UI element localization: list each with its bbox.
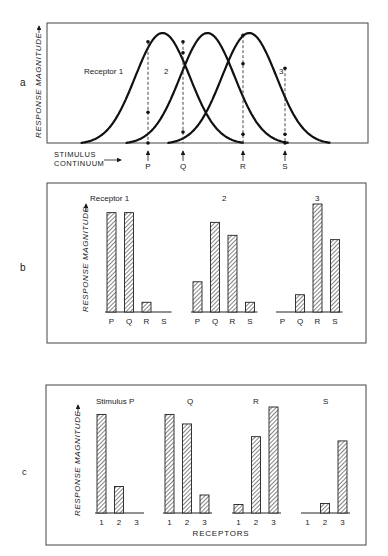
panel-a-frame [47,23,368,143]
panel-label-b: b [20,262,26,273]
category-label: 2 [117,518,122,527]
category-label: Q [212,317,218,326]
intersection-dot [181,130,185,134]
group-title-stimulus-S: S [323,397,328,406]
intersection-dot [241,33,245,37]
category-label: 1 [305,518,310,527]
group-title-stimulus-R: R [253,397,259,406]
category-label: 3 [271,518,276,527]
category-label: R [315,317,321,326]
stimulus-axis-label-line2: CONTINUUM [54,159,104,168]
category-label: P [109,317,114,326]
bar-receptor-2-R [228,235,237,312]
bar-receptor-1-Q [125,213,134,312]
category-label: P [280,317,285,326]
bar-receptor-1-P [107,213,116,312]
stimulus-label-R: R [240,162,246,171]
category-label: Q [297,317,303,326]
bar-stimulus-3-receptor-3 [269,407,278,513]
category-label: R [230,317,236,326]
panel-b: b RESPONSE MAGNITUDE Receptor 1PQRS2PQRS… [20,183,366,343]
group-title-receptor-3: 3 [315,194,320,203]
response-curves [81,33,331,143]
category-label: Q [126,317,132,326]
group-title-receptor-2: 2 [222,194,227,203]
bar-receptor-2-P [193,282,202,312]
category-label: 3 [134,518,139,527]
stimulus-axis-label-line1: STIMULUS [54,150,96,159]
bar-receptor-1-R [142,302,151,312]
intersection-dot [241,62,245,66]
stimulus-label-Q: Q [180,162,186,171]
category-label: 1 [167,518,172,527]
intersection-dot [146,110,150,114]
intersection-dot [181,40,185,44]
bar-stimulus-2-receptor-3 [200,495,209,513]
intersection-dot [146,141,150,145]
intersection-dot [283,66,287,70]
category-label: S [161,317,166,326]
group-title-stimulus-Q: Q [187,397,193,406]
category-label: S [332,317,337,326]
group-title-receptor-1: Receptor 1 [90,194,130,203]
category-label: 3 [340,518,345,527]
bar-receptor-3-S [331,240,340,312]
y-axis-label-c: RESPONSE MAGNITUDE [73,410,82,516]
category-label: P [195,317,200,326]
category-label: 1 [236,518,241,527]
bar-stimulus-1-receptor-1 [97,414,106,513]
stimulus-label-S: S [282,162,287,171]
bar-stimulus-2-receptor-2 [183,424,192,513]
panel-a: a RESPONSE MAGNITUDE PQRS Receptor 1 2 3… [20,23,368,171]
stimulus-label-P: P [145,162,150,171]
category-label: 3 [202,518,207,527]
panel-label-a: a [20,77,26,88]
category-label: 2 [323,518,328,527]
bar-receptor-3-R [313,204,322,312]
category-label: R [144,317,150,326]
curve-receptor-1 [81,33,244,143]
bar-stimulus-3-receptor-2 [252,437,261,513]
bar-receptor-2-S [246,302,255,312]
x-axis-label-receptors: RECEPTORS [193,529,250,538]
intersection-dot [146,40,150,44]
bars-c: Stimulus P123Q123R123S123 [95,397,350,527]
bar-receptor-3-Q [296,295,305,312]
bars-b: Receptor 1PQRS2PQRS3PQRS [90,194,343,326]
intersection-dot [181,51,185,55]
bar-stimulus-4-receptor-3 [338,441,347,513]
intersection-dot [241,132,245,136]
curve-label-receptor-2: 2 [164,67,169,76]
bar-stimulus-2-receptor-1 [165,414,174,513]
intersection-dot [283,132,287,136]
curve-label-receptor-1: Receptor 1 [84,67,124,76]
bar-receptor-2-Q [211,222,220,312]
bar-stimulus-3-receptor-1 [234,505,243,513]
bar-stimulus-1-receptor-2 [115,487,124,514]
category-label: S [247,317,252,326]
figure: a RESPONSE MAGNITUDE PQRS Receptor 1 2 3… [0,0,388,556]
y-axis-label-a: RESPONSE MAGNITUDE [34,32,43,138]
y-axis-label-b: RESPONSE MAGNITUDE [81,206,90,312]
category-label: 2 [185,518,190,527]
panel-label-c: c [22,467,27,477]
group-title-stimulus-P: Stimulus P [96,397,134,406]
intersection-dot [283,141,287,145]
category-label: 2 [254,518,259,527]
category-label: 1 [99,518,104,527]
panel-c: c RESPONSE MAGNITUDE Stimulus P123Q123R1… [22,385,366,545]
curve-label-receptor-3: 3 [279,67,284,76]
bar-stimulus-4-receptor-2 [321,503,330,513]
